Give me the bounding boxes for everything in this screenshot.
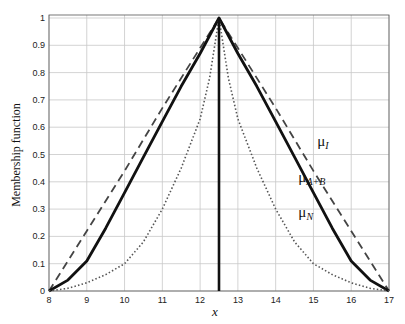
x-tick-label: 11 bbox=[158, 295, 167, 305]
y-axis-ticks: 00.10.20.30.40.50.60.70.80.91 bbox=[32, 13, 45, 296]
y-tick-label: 0.3 bbox=[32, 204, 45, 214]
membership-function-chart: 00.10.20.30.40.50.60.70.80.91 8910111213… bbox=[0, 0, 405, 324]
curve-label: μI bbox=[317, 133, 329, 151]
curve-label: μN bbox=[298, 204, 314, 222]
x-tick-label: 13 bbox=[233, 295, 243, 305]
x-tick-label: 10 bbox=[120, 295, 130, 305]
y-tick-label: 0.5 bbox=[32, 150, 45, 160]
y-tick-label: 0.8 bbox=[32, 68, 45, 78]
x-tick-label: 8 bbox=[46, 295, 51, 305]
x-tick-label: 15 bbox=[308, 295, 318, 305]
x-tick-label: 16 bbox=[346, 295, 356, 305]
y-axis-label: Membership function bbox=[9, 103, 23, 207]
y-tick-label: 0.9 bbox=[32, 40, 45, 50]
x-tick-label: 14 bbox=[271, 295, 281, 305]
y-tick-label: 0.4 bbox=[32, 177, 45, 187]
x-tick-label: 17 bbox=[384, 295, 394, 305]
x-axis-ticks: 891011121314151617 bbox=[46, 295, 394, 305]
y-tick-label: 1 bbox=[40, 13, 45, 23]
y-tick-label: 0.7 bbox=[32, 95, 45, 105]
x-tick-label: 9 bbox=[84, 295, 89, 305]
y-tick-label: 0.1 bbox=[32, 259, 45, 269]
y-tick-label: 0 bbox=[40, 286, 45, 296]
y-tick-label: 0.2 bbox=[32, 231, 45, 241]
x-axis-label: x bbox=[211, 304, 218, 319]
x-tick-label: 12 bbox=[195, 295, 205, 305]
y-tick-label: 0.6 bbox=[32, 122, 45, 132]
curve-label: μA+B bbox=[298, 169, 325, 187]
